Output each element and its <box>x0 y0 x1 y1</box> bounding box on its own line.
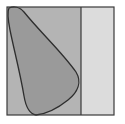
right-region <box>81 7 114 115</box>
diagram-canvas <box>0 0 125 124</box>
